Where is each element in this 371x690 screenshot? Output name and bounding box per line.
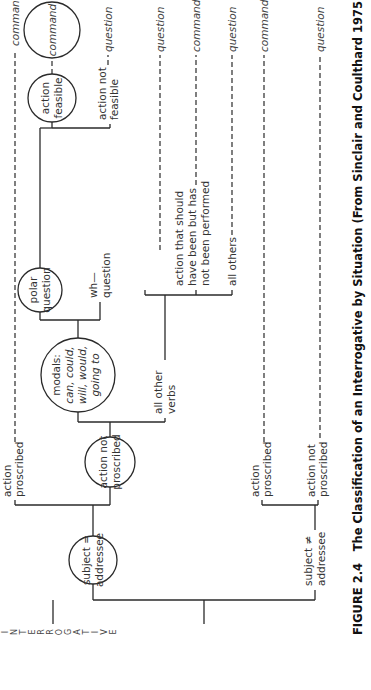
- root-letter: E: [28, 629, 37, 634]
- node-label: modals:: [50, 354, 62, 396]
- figure-caption: FIGURE 2.4 The Classification of an Inte…: [351, 0, 365, 635]
- node-label: action not: [97, 436, 109, 489]
- outcome-question: question: [314, 7, 326, 52]
- node-label: question: [100, 253, 112, 298]
- outcome-question: question: [154, 7, 166, 52]
- node-label: subject ≠: [302, 536, 314, 586]
- node-label: action: [39, 82, 51, 114]
- root-letter: N: [10, 629, 19, 635]
- node-label: action not: [96, 67, 108, 120]
- node-label: action not: [305, 444, 317, 497]
- node-label: proscribed: [317, 442, 329, 497]
- root-letter: V: [100, 629, 109, 635]
- node-label: proscribed: [261, 442, 273, 497]
- node-label: action that should: [173, 191, 185, 286]
- node-label: verbs: [165, 385, 177, 414]
- classification-tree-diagram: I N T E R R O G A T I V E subject = addr…: [0, 0, 371, 690]
- root-label-interrogative: I N T E R R O G A T I V E: [1, 629, 118, 636]
- node-label: all other: [152, 370, 164, 414]
- node-label: question: [40, 267, 52, 312]
- node-label: action: [249, 465, 261, 497]
- outcome-question: question: [102, 7, 114, 52]
- node-label: addressee: [315, 532, 327, 586]
- node-label: will, would,: [76, 346, 88, 405]
- node-label: not been performed: [199, 181, 211, 286]
- root-letter: G: [64, 629, 73, 635]
- node-label: polar: [27, 276, 39, 303]
- node-label: proscribed: [13, 442, 25, 497]
- node-label: feasible: [108, 79, 120, 120]
- node-label: wh—: [87, 272, 99, 298]
- figure-number: FIGURE 2.4: [351, 563, 365, 635]
- root-letter: R: [46, 629, 55, 635]
- root-letter: I: [91, 631, 100, 633]
- figure-caption-text: The Classification of an Interrogative b…: [351, 0, 365, 551]
- node-label: feasible: [52, 77, 64, 118]
- node-label: proscribed: [110, 434, 122, 489]
- outcome-command: command: [258, 0, 270, 52]
- outcome-command: command: [46, 3, 58, 56]
- root-letter: R: [37, 629, 46, 635]
- node-label: going to: [89, 353, 101, 396]
- root-letter: T: [19, 629, 28, 635]
- node-label: addressee: [93, 533, 105, 587]
- node-label: action: [1, 465, 13, 497]
- node-label: have been but has: [186, 188, 198, 286]
- node-label: can, could,: [63, 346, 75, 403]
- outcome-command: command: [9, 0, 21, 46]
- outcome-question: question: [226, 7, 238, 52]
- root-letter: E: [109, 629, 118, 634]
- node-label: all others: [226, 237, 238, 286]
- root-letter: O: [55, 629, 64, 635]
- root-letter: I: [1, 631, 10, 633]
- node-label: subject =: [80, 535, 92, 585]
- rotated-figure-page: I N T E R R O G A T I V E subject = addr…: [0, 0, 371, 690]
- root-letter: A: [73, 629, 82, 635]
- outcome-command: command: [190, 0, 202, 52]
- root-letter: T: [82, 629, 91, 635]
